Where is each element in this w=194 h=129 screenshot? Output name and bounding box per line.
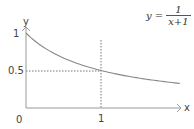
formula-annotation: y = 1 x+1 — [146, 4, 191, 27]
y-axis-label: y — [23, 17, 29, 27]
y-tick-1: 1 — [13, 29, 19, 39]
formula-numerator: 1 — [173, 4, 183, 15]
formula-fraction: 1 x+1 — [166, 4, 190, 27]
origin-label: 0 — [16, 115, 22, 125]
formula-denominator: x+1 — [166, 15, 190, 27]
curve-series — [26, 33, 180, 83]
formula-lhs: y = — [146, 10, 163, 21]
x-tick-1: 1 — [98, 114, 104, 124]
x-axis-label: x — [184, 103, 190, 113]
y-tick-half: 0.5 — [8, 66, 24, 76]
